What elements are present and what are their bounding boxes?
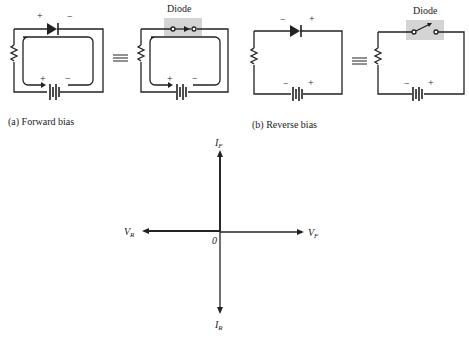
equiv-battery-minus-label: − <box>192 74 198 84</box>
vr-axis-label: VR <box>124 227 134 239</box>
reverse-bias-circuit <box>251 31 342 101</box>
origin-label: 0 <box>212 236 217 246</box>
battery-icon <box>413 87 422 101</box>
diode-minus-label: − <box>67 12 73 22</box>
reverse-bias-caption: (b) Reverse bias <box>252 120 317 130</box>
diode-label: Diode <box>413 6 437 16</box>
diode-diagram <box>0 0 469 342</box>
if-axis-label: IF <box>215 138 223 150</box>
battery-plus-label: + <box>308 78 314 88</box>
resistor-icon <box>11 45 17 61</box>
vf-axis-label: VF <box>308 228 318 240</box>
equiv-battery-plus-label: + <box>428 78 434 88</box>
diode-plus-label: + <box>309 14 315 24</box>
battery-minus-label: − <box>65 74 71 84</box>
ir-axis-label: IR <box>215 320 223 332</box>
battery-plus-label: + <box>40 74 46 84</box>
diode-icon <box>290 25 300 37</box>
resistor-icon <box>138 45 144 61</box>
battery-minus-label: − <box>283 79 289 89</box>
diode-label: Diode <box>167 4 191 14</box>
switch-box <box>164 18 202 36</box>
forward-bias-circuit <box>11 29 103 100</box>
forward-equiv-circuit <box>138 27 228 100</box>
equiv-battery-minus-label: − <box>404 79 410 89</box>
battery-icon <box>177 84 186 100</box>
resistor-icon <box>251 48 257 64</box>
resistor-icon <box>375 48 381 64</box>
diode-plus-label: + <box>37 11 43 21</box>
battery-icon <box>293 87 302 101</box>
iv-axes <box>146 154 300 310</box>
battery-icon <box>50 84 59 100</box>
diode-icon <box>47 23 57 35</box>
equiv-battery-plus-label: + <box>167 74 173 84</box>
diode-minus-label: − <box>280 15 286 25</box>
forward-bias-caption: (a) Forward bias <box>8 117 74 127</box>
